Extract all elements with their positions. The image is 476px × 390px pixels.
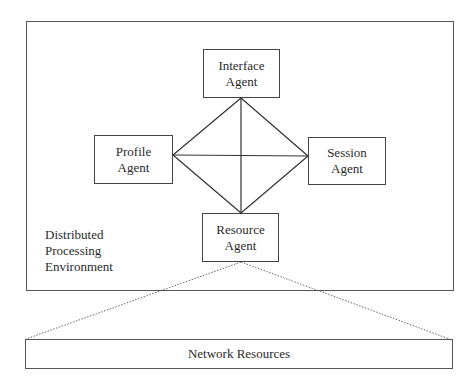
resource-agent-box: Resource Agent [202, 213, 279, 262]
interface-agent-label-2: Agent [226, 74, 258, 90]
session-agent-box: Session Agent [308, 137, 386, 185]
edge-session-resource [241, 156, 308, 213]
environment-label-line-3: Environment [45, 259, 113, 275]
network-resources-box: Network Resources [25, 339, 453, 369]
profile-agent-label-2: Agent [118, 160, 150, 176]
environment-label-line-1: Distributed [45, 227, 113, 243]
environment-label-line-2: Processing [45, 243, 113, 259]
session-agent-label-2: Agent [331, 161, 363, 177]
resource-agent-label-2: Agent [225, 238, 257, 254]
resource-agent-label-1: Resource [216, 222, 264, 238]
edge-interface-session [241, 98, 308, 156]
network-resources-label: Network Resources [188, 346, 290, 362]
profile-agent-box: Profile Agent [94, 135, 173, 184]
profile-agent-label-1: Profile [116, 144, 151, 160]
interface-agent-label-1: Interface [218, 58, 264, 74]
edge-interface-profile [173, 98, 241, 155]
session-agent-label-1: Session [327, 145, 367, 161]
edge-profile-resource [173, 155, 241, 213]
projection-right [241, 262, 452, 340]
interface-agent-box: Interface Agent [203, 49, 280, 98]
edge-profile-session [173, 155, 308, 156]
environment-label: Distributed Processing Environment [45, 227, 113, 275]
